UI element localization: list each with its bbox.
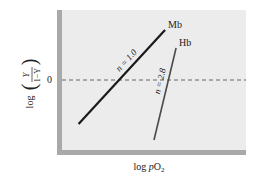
y-axis-label-log: log	[24, 96, 35, 109]
y-axis-bar	[57, 10, 62, 155]
series-label-hb: Hb	[179, 37, 191, 48]
x-axis-bar	[57, 150, 246, 155]
y-axis-label: log ( Y 1−Y )	[18, 59, 42, 109]
y-axis-label-numerator: Y	[21, 72, 31, 78]
hill-plot: 0 Mbn = 1.0Hbn = 2.8 log pO2 log ( Y 1−Y…	[0, 0, 261, 178]
x-axis-label: log pO2	[133, 161, 165, 174]
plot-background	[60, 10, 246, 153]
y-tick-label: 0	[47, 74, 52, 85]
series-label-mb: Mb	[168, 19, 182, 30]
y-axis-label-denominator: 1−Y	[33, 68, 42, 83]
y-axis-label-paren-open: (	[18, 83, 41, 90]
y-axis-label-paren-close: )	[18, 59, 41, 66]
